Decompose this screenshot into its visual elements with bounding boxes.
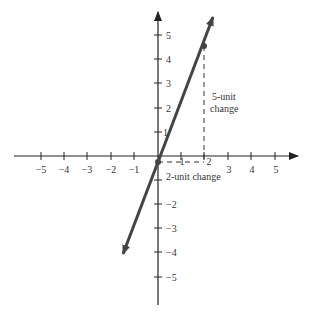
- point-2-4.5: [201, 43, 207, 49]
- svg-text:4: 4: [250, 164, 255, 175]
- svg-text:−5: −5: [166, 272, 177, 283]
- svg-text:−3: −3: [166, 223, 177, 234]
- svg-text:−3: −3: [82, 164, 93, 175]
- svg-text:2: 2: [207, 156, 212, 167]
- rise-label-line2: change: [210, 103, 239, 114]
- svg-text:−1: −1: [129, 164, 140, 175]
- rise-label-line1: 5-unit: [212, 91, 236, 102]
- point-y-intercept: [155, 159, 161, 165]
- svg-text:5: 5: [166, 30, 171, 41]
- svg-text:−4: −4: [59, 164, 70, 175]
- run-label: 2-unit change: [166, 171, 221, 182]
- svg-text:−2: −2: [166, 199, 177, 210]
- svg-text:2: 2: [166, 103, 171, 114]
- coordinate-plane: −5 −4 −3 −2 −1 1 2 3 4 5 5 4 3 2 1 −2 −3…: [0, 0, 309, 320]
- plotted-line-lower: [123, 162, 158, 254]
- svg-text:3: 3: [166, 78, 171, 89]
- svg-text:−5: −5: [36, 164, 47, 175]
- svg-text:−4: −4: [166, 247, 177, 258]
- svg-text:4: 4: [166, 54, 171, 65]
- svg-text:3: 3: [227, 164, 232, 175]
- svg-text:5: 5: [274, 164, 279, 175]
- svg-text:−2: −2: [106, 164, 117, 175]
